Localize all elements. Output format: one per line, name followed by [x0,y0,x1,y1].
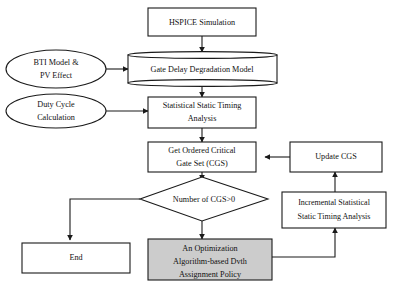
node-optimization-algorithm-policy[interactable]: An Optimization Algorithm-based Dvth Ass… [148,239,272,280]
optimization-label-line2: Algorithm-based Dvth [173,257,247,266]
node-gate-delay-degradation-model[interactable]: Gate Delay Degradation Model [128,52,277,87]
node-hspice-simulation[interactable]: HSPICE Simulation [148,8,256,36]
flowchart-canvas: HSPICE Simulation BTI Model & PV Effect … [0,0,404,292]
node-duty-cycle-calculation[interactable]: Duty Cycle Calculation [6,94,106,128]
bti-label-line1: BTI Model & [33,58,79,67]
optimization-label-line1: An Optimization [182,244,237,253]
optimization-label-line3: Assignment Policy [179,270,242,279]
gate-delay-cylinder-top [128,52,277,59]
gate-delay-label: Gate Delay Degradation Model [151,65,255,74]
incremental-label-line2: Static Timing Analysis [298,212,371,221]
incremental-label-line1: Incremental Statistical [298,198,371,207]
edge-optimization-to-incremental [272,228,335,257]
hspice-label: HSPICE Simulation [169,18,235,27]
edge-decision-to-end [70,199,140,240]
end-label: End [69,253,82,262]
decision-label: Number of CGS>0 [173,195,235,204]
node-get-ordered-critical-gate-set[interactable]: Get Ordered Critical Gate Set (CGS) [148,142,256,172]
bti-ellipse [6,50,106,88]
duty-cycle-label-line1: Duty Cycle [37,100,75,109]
node-end[interactable]: End [22,243,130,273]
flowchart-svg: HSPICE Simulation BTI Model & PV Effect … [0,0,404,292]
cgs-label-line1: Get Ordered Critical [168,146,236,155]
node-bti-model-pv-effect[interactable]: BTI Model & PV Effect [6,50,106,88]
ssta-label-line2: Analysis [188,114,217,123]
node-statistical-static-timing-analysis[interactable]: Statistical Static Timing Analysis [148,97,256,128]
bti-label-line2: PV Effect [40,71,73,80]
cgs-label-line2: Gate Set (CGS) [176,159,228,168]
duty-cycle-label-line2: Calculation [37,113,75,122]
update-cgs-label: Update CGS [315,152,357,161]
node-incremental-ssta[interactable]: Incremental Statistical Static Timing An… [282,192,386,228]
gate-delay-cylinder-bottom [128,80,277,87]
node-decision-number-of-cgs[interactable]: Number of CGS>0 [140,177,268,221]
ssta-label-line1: Statistical Static Timing [163,101,242,110]
node-update-cgs[interactable]: Update CGS [290,142,382,172]
